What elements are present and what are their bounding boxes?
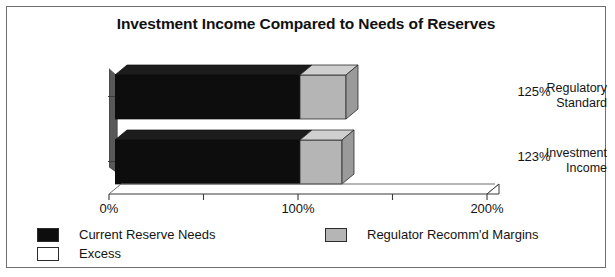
legend-column-left: Current Reserve Needs Excess <box>37 225 216 263</box>
data-label-regulatory-standard: 125% <box>499 84 569 99</box>
legend-item-current-reserve-needs[interactable]: Current Reserve Needs <box>37 225 216 244</box>
bar-regulatory-standard[interactable] <box>115 63 405 119</box>
x-tick-label-200: 200% <box>447 201 527 216</box>
legend-item-regulator-recommd-margins[interactable]: Regulator Recomm'd Margins <box>325 225 539 244</box>
chart-frame: Investment Income Compared to Needs of R… <box>6 6 606 268</box>
legend-item-excess[interactable]: Excess <box>37 244 216 263</box>
legend-label: Current Reserve Needs <box>79 227 216 242</box>
chart-legend: Current Reserve Needs Excess Regulator R… <box>7 225 607 269</box>
black-swatch-icon <box>37 228 59 242</box>
legend-column-right: Regulator Recomm'd Margins <box>325 225 539 244</box>
legend-label: Regulator Recomm'd Margins <box>367 227 539 242</box>
legend-label: Excess <box>79 246 121 261</box>
x-tick-label-0: 0% <box>69 201 149 216</box>
data-label-investment-income: 123% <box>499 149 569 164</box>
x-tick-label-100: 100% <box>258 201 338 216</box>
gray-swatch-icon <box>325 228 347 242</box>
bar-investment-income[interactable] <box>115 128 405 184</box>
white-swatch-icon <box>37 247 59 261</box>
